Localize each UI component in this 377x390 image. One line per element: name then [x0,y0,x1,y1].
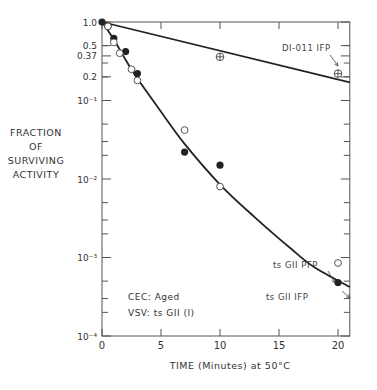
y-tick-label: 10⁻² [77,175,97,185]
y-tick-label: 1.0 [83,18,98,28]
open-circle-marker [335,260,342,267]
y-tick-label: 0.2 [83,72,97,82]
annotation-di011-ifp-arrow [330,55,338,66]
open-circle-marker [110,39,117,46]
open-circle-marker [181,127,188,134]
annotation-tsgii-pfp: ts GII PFP [273,260,318,270]
chart-plot-area: 051015201.00.50.370.210⁻¹10⁻²10⁻³10⁻⁴DI-… [0,0,377,390]
y-axis-label-line: OF [4,140,68,154]
y-tick-label: 10⁻³ [77,253,97,263]
open-circle-marker [217,183,224,190]
cec-note: CEC: Aged [128,289,195,305]
open-circle-marker [134,77,141,84]
y-tick-label: 0.5 [83,41,97,51]
annotation-tsgii-ifp: ts GII IFP [266,292,308,302]
x-tick-label: 15 [273,340,286,351]
annotation-tsgii-pfp-arrow [328,271,335,283]
x-tick-label: 5 [158,340,164,351]
y-axis-label-line: FRACTION [4,126,68,140]
y-tick-label: 10⁻¹ [77,96,97,106]
filled-circle-marker [216,162,223,169]
open-circle-marker [105,23,112,30]
x-axis-label: TIME (Minutes) at 50°C [140,360,320,371]
filled-circle-marker [334,279,341,286]
x-tick-label: 0 [99,340,105,351]
vsv-note: VSV: ts GII (I) [128,305,195,321]
annotation-di011-ifp: DI-011 IFP [282,43,331,53]
y-axis-label: FRACTION OF SURVIVING ACTIVITY [4,126,68,182]
y-axis-label-line: ACTIVITY [4,168,68,182]
condition-note: CEC: Aged VSV: ts GII (I) [128,289,195,321]
filled-circle-marker [181,149,188,156]
x-tick-label: 20 [332,340,345,351]
open-circle-marker [128,66,135,73]
fit-line [102,22,350,287]
x-tick-label: 10 [214,340,227,351]
y-tick-label: 0.37 [77,51,97,61]
y-axis-label-line: SURVIVING [4,154,68,168]
open-circle-marker [116,50,123,57]
y-tick-label: 10⁻⁴ [77,332,97,342]
